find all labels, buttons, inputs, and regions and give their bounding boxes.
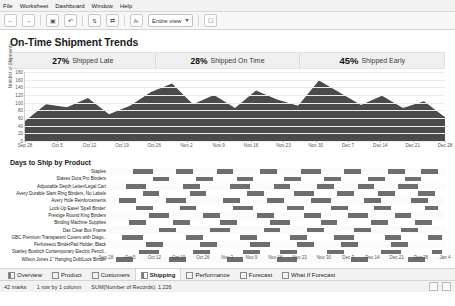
gantt-bar[interactable]	[200, 242, 217, 247]
view-size-select[interactable]: Entire view	[148, 14, 193, 27]
gantt-bar[interactable]	[274, 184, 291, 189]
gantt-bar[interactable]	[166, 198, 186, 203]
area-chart-plot[interactable]: 020406080100120140160180Sep 28Oct 5Oct 1…	[24, 72, 445, 142]
gantt-bar[interactable]	[203, 213, 220, 218]
gantt-row-track[interactable]	[109, 219, 445, 226]
gantt-bar[interactable]	[210, 228, 230, 233]
gantt-row-track[interactable]	[109, 204, 445, 211]
gantt-bar[interactable]	[243, 250, 260, 255]
menu-item-file[interactable]: File	[3, 3, 13, 9]
gantt-bar[interactable]	[217, 169, 234, 174]
gantt-bar[interactable]	[337, 191, 354, 196]
gantt-row-track[interactable]	[109, 234, 445, 241]
highlight-icon[interactable]: A⋅	[130, 14, 143, 27]
gantt-bar[interactable]	[233, 206, 253, 211]
gantt-row-track[interactable]	[109, 168, 445, 175]
gantt-bar[interactable]	[257, 213, 274, 218]
gantt-bar[interactable]	[301, 169, 321, 174]
gantt-row[interactable]: Prestige Round King Binders	[10, 212, 445, 219]
gantt-row-track[interactable]	[109, 212, 445, 219]
menu-item-help[interactable]: Help	[120, 3, 132, 9]
gantt-bar[interactable]	[371, 220, 388, 225]
gantt-bar[interactable]	[223, 198, 240, 203]
gantt-bar[interactable]	[381, 250, 401, 255]
gantt-bar[interactable]	[133, 169, 153, 174]
swap-icon[interactable]: ⇄	[106, 14, 119, 27]
gantt-bar[interactable]	[374, 206, 391, 211]
gantt-bar[interactable]	[324, 177, 341, 182]
gantt-row[interactable]: Staples	[10, 168, 445, 175]
undo-icon[interactable]: ↶	[64, 14, 77, 27]
gantt-bar[interactable]	[294, 191, 314, 196]
gantt-bar[interactable]	[307, 228, 324, 233]
gantt-bar[interactable]	[139, 250, 159, 255]
menu-item-window[interactable]: Window	[92, 3, 113, 9]
gantt-bar[interactable]	[304, 213, 321, 218]
gantt-bar[interactable]	[290, 235, 307, 240]
gantt-bar[interactable]	[183, 184, 200, 189]
gantt-bar[interactable]	[341, 242, 358, 247]
gantt-bar[interactable]	[354, 228, 371, 233]
gantt-row[interactable]: Avery Durable Slant Ring Binders, No Lab…	[10, 190, 445, 197]
gantt-bar[interactable]	[364, 198, 381, 203]
gantt-row[interactable]: Staves Dura Pro Binders	[10, 175, 445, 182]
kpi-shipped-early[interactable]: 45% Shipped Early	[300, 53, 444, 68]
gantt-bar[interactable]	[401, 228, 418, 233]
gantt-bar[interactable]	[146, 242, 163, 247]
gantt-row-track[interactable]	[109, 197, 445, 204]
gantt-bar[interactable]	[122, 235, 142, 240]
kpi-shipped-late[interactable]: 27% Shipped Late	[11, 53, 156, 68]
gantt-bar[interactable]	[196, 177, 213, 182]
gantt-bar[interactable]	[173, 220, 190, 225]
gantt-row[interactable]: Perforeeco BinderPad Holder, Black	[10, 241, 445, 248]
gantt-bar[interactable]	[432, 250, 442, 255]
gantt-bar[interactable]	[358, 184, 375, 189]
gantt-bar[interactable]	[331, 206, 348, 211]
kpi-shipped-on-time[interactable]: 28% Shipped On Time	[156, 53, 301, 68]
gantt-bar[interactable]	[149, 213, 169, 218]
menu-item-dashboard[interactable]: Dashboard	[55, 3, 84, 9]
gantt-bar[interactable]	[348, 213, 368, 218]
gantt-row[interactable]: Dax Clear Box Frame	[10, 226, 445, 233]
gantt-bar[interactable]	[398, 184, 418, 189]
gantt-bar[interactable]	[126, 184, 146, 189]
gantt-bar[interactable]	[267, 198, 284, 203]
gantt-bar[interactable]	[378, 191, 395, 196]
save-icon[interactable]: ▣	[46, 14, 59, 27]
gantt-bar[interactable]	[321, 220, 338, 225]
gantt-row-track[interactable]	[109, 183, 445, 190]
gantt-bar[interactable]	[395, 213, 412, 218]
gantt-bar[interactable]	[230, 184, 250, 189]
gantt-row-track[interactable]	[109, 175, 445, 182]
forward-icon[interactable]: →	[22, 14, 35, 27]
status-prev-icon[interactable]	[429, 282, 438, 291]
gantt-bar[interactable]	[190, 191, 207, 196]
gantt-bar[interactable]	[237, 177, 254, 182]
gantt-bar[interactable]	[143, 191, 160, 196]
gantt-bar[interactable]	[317, 184, 334, 189]
gantt-bar[interactable]	[297, 242, 314, 247]
gantt-bar[interactable]	[250, 242, 270, 247]
gantt-bar[interactable]	[368, 177, 385, 182]
gantt-row-track[interactable]	[109, 241, 445, 248]
gantt-row-track[interactable]	[109, 190, 445, 197]
gantt-row[interactable]: Adjustable Depth Letter/Legal Cart	[10, 183, 445, 190]
menu-item-worksheet[interactable]: Worksheet	[20, 3, 49, 9]
gantt-bar[interactable]	[180, 206, 197, 211]
gantt-bar[interactable]	[311, 198, 331, 203]
gantt-bar[interactable]	[425, 206, 438, 211]
gantt-bar[interactable]	[284, 177, 301, 182]
back-icon[interactable]: ←	[4, 14, 17, 27]
presentation-icon[interactable]: ☐	[204, 14, 217, 27]
status-next-icon[interactable]	[442, 282, 451, 291]
gantt-bar[interactable]	[415, 220, 432, 225]
gantt-row[interactable]: Avery Hole Reinforcements	[10, 197, 445, 204]
gantt-bar[interactable]	[344, 169, 361, 174]
gantt-bar[interactable]	[327, 250, 344, 255]
gantt-row[interactable]: Binding Machine Supplies	[10, 219, 445, 226]
gantt-bar[interactable]	[220, 220, 237, 225]
gantt-bar[interactable]	[176, 169, 193, 174]
gantt-bar[interactable]	[421, 169, 438, 174]
gantt-row[interactable]: GBC Premium Transparent Covers with Diag…	[10, 234, 445, 241]
sort-icon[interactable]: ⇅	[88, 14, 101, 27]
